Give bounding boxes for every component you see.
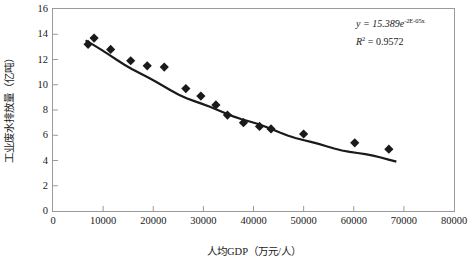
x-tick-label: 30000 xyxy=(190,215,216,227)
y-axis-tick-labels: 0246810121416 xyxy=(14,8,48,212)
y-tick-label: 6 xyxy=(20,130,48,140)
x-tick-label: 60000 xyxy=(341,215,367,227)
x-tick-label: 50000 xyxy=(291,215,317,227)
data-point-marker xyxy=(143,61,152,70)
x-tick-label: 80000 xyxy=(441,215,467,227)
equation-line: y = 15.389e-2E-05x xyxy=(356,13,456,31)
data-point-marker xyxy=(299,129,308,138)
data-point-marker xyxy=(126,56,135,65)
y-tick-label: 16 xyxy=(20,4,48,14)
y-tick-label: 10 xyxy=(20,80,48,90)
x-tick-label: 40000 xyxy=(240,215,266,227)
data-point-marker xyxy=(266,124,275,133)
data-point-marker xyxy=(384,145,393,154)
x-tick-label: 10000 xyxy=(90,215,116,227)
chart-figure: 工业废水排放量（亿吨） 0246810121416 01000020000300… xyxy=(0,0,468,266)
equation-exponent: -2E-05x xyxy=(404,17,425,24)
x-tick-label: 0 xyxy=(50,215,55,227)
y-tick-label: 12 xyxy=(20,55,48,65)
data-point-marker xyxy=(90,33,99,42)
axis-tick-marks xyxy=(53,34,404,211)
data-point-marker xyxy=(83,40,92,49)
r-squared-superscript: 2 xyxy=(362,35,365,42)
trendline-equation-annotation: y = 15.389e-2E-05x R2 = 0.9572 xyxy=(356,13,456,50)
x-tick-label: 20000 xyxy=(140,215,166,227)
x-axis-title: 人均GDP（万元/人） xyxy=(52,243,456,258)
y-tick-label: 2 xyxy=(20,181,48,191)
r-squared-line: R2 = 0.9572 xyxy=(356,31,456,49)
y-tick-label: 4 xyxy=(20,156,48,166)
y-tick-label: 14 xyxy=(20,29,48,39)
data-point-marker xyxy=(181,84,190,93)
equation-text: y = 15.389e xyxy=(356,18,404,29)
x-tick-label: 70000 xyxy=(391,215,417,227)
r-squared-value: = 0.9572 xyxy=(368,37,404,48)
data-point-markers xyxy=(83,33,393,153)
x-axis-tick-labels: 0100002000030000400005000060000700008000… xyxy=(52,215,455,231)
y-tick-label: 8 xyxy=(20,105,48,115)
data-point-marker xyxy=(350,138,359,147)
data-point-marker xyxy=(160,62,169,71)
y-tick-label: 0 xyxy=(20,206,48,216)
data-point-marker xyxy=(196,92,205,101)
